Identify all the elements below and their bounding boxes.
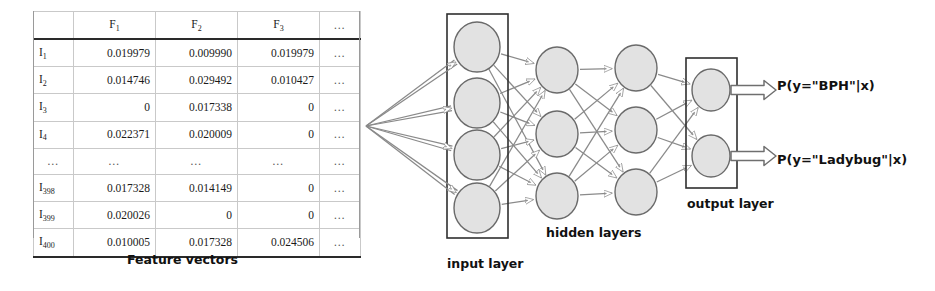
caption-input-layer: input layer bbox=[447, 256, 523, 271]
network-edge bbox=[575, 145, 618, 181]
network-node-hidden2-2 bbox=[615, 107, 657, 153]
network-node-input-4 bbox=[454, 183, 500, 233]
network-edge bbox=[580, 69, 612, 70]
network-node-hidden2-1 bbox=[615, 45, 657, 91]
network-edge bbox=[501, 54, 534, 63]
caption-hidden-layers: hidden layers bbox=[546, 225, 641, 240]
fanout-arrow-shaft bbox=[366, 126, 451, 151]
network-node-hidden2-3 bbox=[615, 169, 657, 215]
output-probability-label-ladybug: P(y="Ladybug"|x) bbox=[777, 152, 907, 167]
network-edge bbox=[658, 74, 690, 83]
fanout-arrow-shaft bbox=[366, 126, 458, 191]
network-edges bbox=[489, 54, 698, 204]
network-node-output-1 bbox=[692, 69, 730, 111]
network-node-hidden1-1 bbox=[536, 47, 578, 93]
network-node-hidden1-2 bbox=[536, 111, 578, 157]
network-edge bbox=[650, 108, 698, 174]
network-node-output-2 bbox=[692, 135, 730, 177]
network-edge bbox=[502, 200, 534, 205]
fanout-arrow-shaft bbox=[366, 111, 452, 126]
network-edge bbox=[580, 193, 612, 195]
feature-to-input-arrows bbox=[366, 60, 458, 194]
neural-network-diagram bbox=[0, 0, 935, 291]
network-node-input-2 bbox=[454, 78, 500, 128]
network-edge bbox=[495, 150, 539, 191]
network-node-input-1 bbox=[454, 22, 500, 72]
network-node-input-3 bbox=[454, 130, 500, 180]
network-edge bbox=[651, 86, 697, 140]
output-probability-label-bph: P(y="BPH"|x) bbox=[777, 78, 875, 93]
fanout-arrow-shaft bbox=[366, 64, 457, 126]
network-node-hidden1-3 bbox=[536, 173, 578, 219]
caption-output-layer: output layer bbox=[687, 196, 774, 211]
